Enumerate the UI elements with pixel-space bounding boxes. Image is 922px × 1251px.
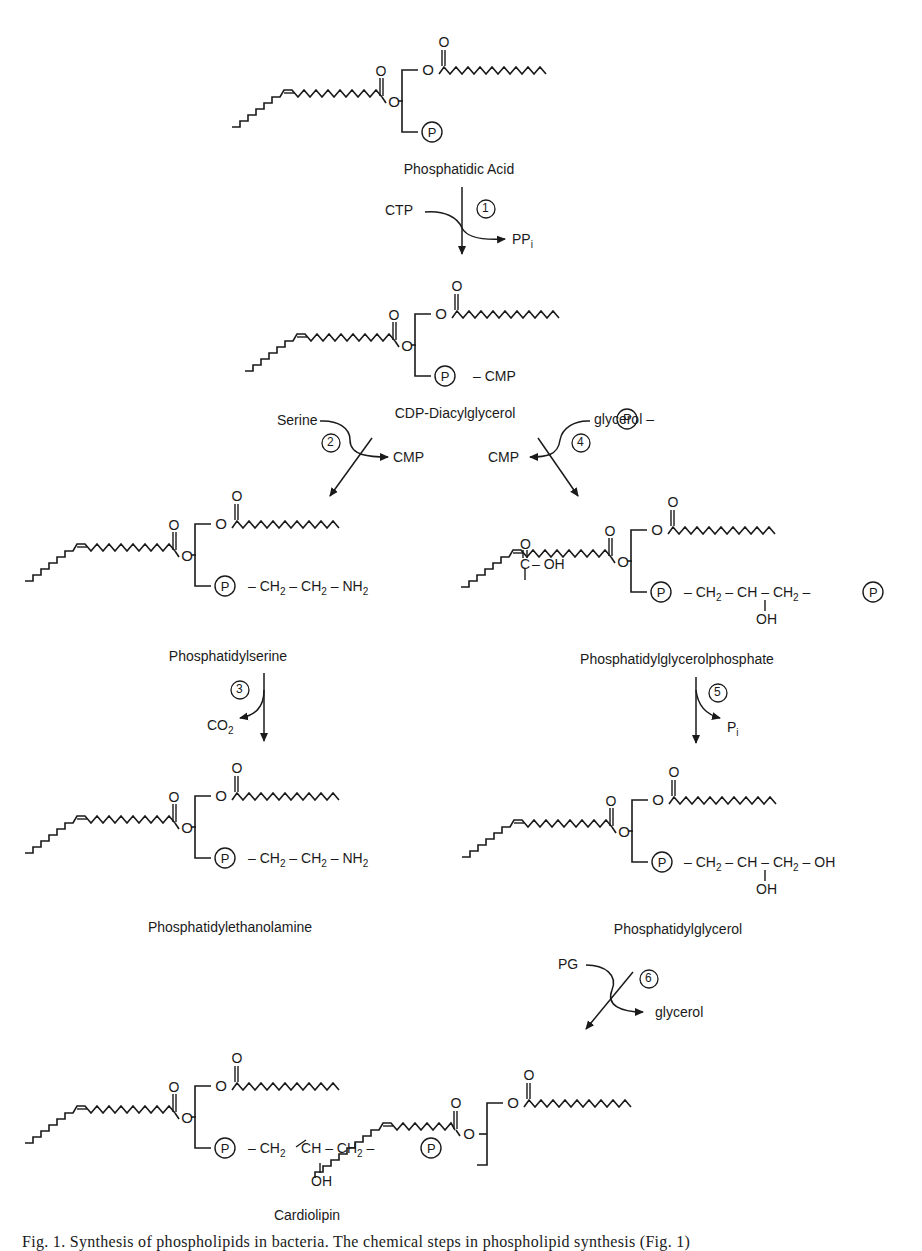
phosphate-label: P — [623, 411, 632, 426]
pathway-drawing: O O O O P O O — [0, 0, 922, 1251]
step-6-number: 6 — [645, 971, 652, 985]
svg-text:O: O — [463, 1125, 475, 1142]
pgp-head-group: – CH2 – CH – CH2 – — [684, 584, 810, 603]
ps-carboxyl-oh: – OH — [532, 556, 565, 572]
compound-label-phosphatidylglycerolphosphate: Phosphatidylglycerolphosphate — [580, 651, 774, 667]
ps-carbonyl-o: O — [520, 536, 531, 552]
step-3-output: CO2 — [207, 717, 234, 736]
step-6-output: glycerol — [655, 1004, 703, 1020]
cardiolipin-linker: – CH2 CH – CH2 – — [248, 1140, 374, 1159]
pgp-terminal-phosphate: P — [869, 585, 878, 600]
step-5-number: 5 — [714, 685, 721, 699]
cmp-group-label: – CMP — [473, 368, 516, 384]
figure-caption: Fig. 1. Synthesis of phospholipids in ba… — [22, 1233, 690, 1251]
compound-label-cdp-diacylglycerol: CDP-Diacylglycerol — [395, 405, 516, 421]
cardiolipin-phosphate-right: P — [427, 1141, 436, 1156]
svg-text:O: O — [507, 1094, 519, 1111]
pg-hydroxyl: OH — [756, 881, 777, 897]
step-3-number: 3 — [236, 682, 243, 696]
compound-label-phosphatidylethanolamine: Phosphatidylethanolamine — [148, 919, 312, 935]
pg-head-group: – CH2 – CH – CH2 – OH — [684, 854, 835, 873]
step-2-input: Serine — [277, 412, 317, 428]
compound-label-phosphatidylserine: Phosphatidylserine — [169, 648, 287, 664]
svg-text:O: O — [451, 1095, 462, 1111]
compound-label-phosphatidic-acid: Phosphatidic Acid — [404, 161, 515, 177]
pe-head-group: – CH2 – CH2 – NH2 — [248, 850, 368, 869]
ps-head-group: – CH2 – CH2 – NH2 — [248, 578, 368, 597]
cardiolipin-hydroxyl: OH — [311, 1173, 332, 1189]
step-1-output: PPi — [512, 231, 533, 250]
step-6-input: PG — [558, 956, 578, 972]
svg-text:O: O — [524, 1067, 535, 1083]
step-1-input: CTP — [385, 202, 413, 218]
step-2-output: CMP — [393, 449, 424, 465]
step-4-number: 4 — [577, 435, 584, 449]
step-2-number: 2 — [327, 435, 334, 449]
compound-label-cardiolipin: Cardiolipin — [274, 1207, 340, 1223]
ps-carboxyl-carbon: C — [520, 556, 530, 572]
step-4-output: CMP — [488, 449, 519, 465]
compound-label-phosphatidylglycerol: Phosphatidylglycerol — [614, 921, 742, 937]
pgp-hydroxyl: OH — [756, 611, 777, 627]
step-5-output: Pi — [727, 719, 739, 738]
step-1-number: 1 — [482, 201, 489, 215]
